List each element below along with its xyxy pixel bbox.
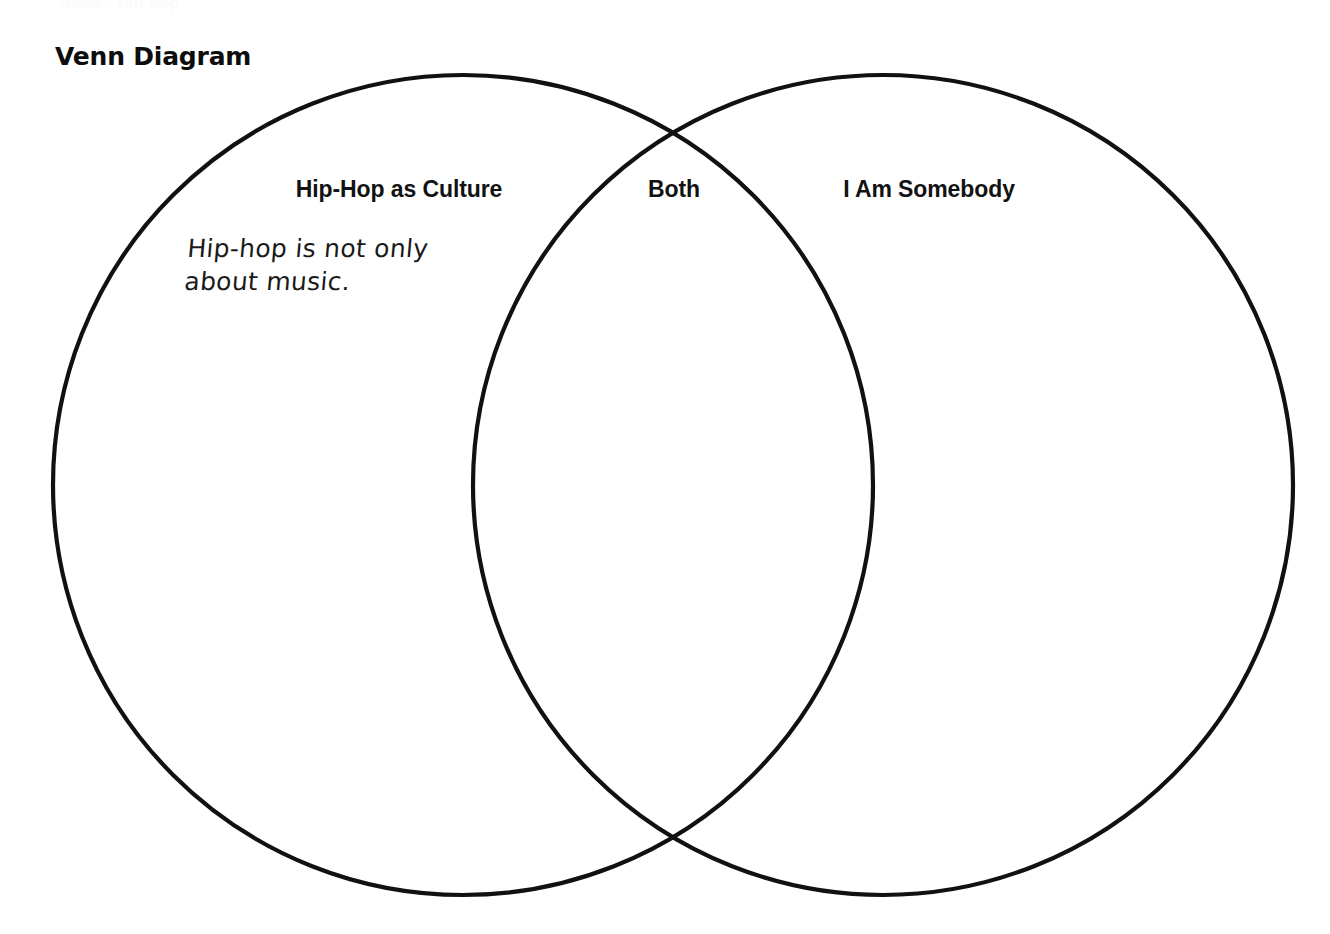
venn-label-left: Hip-Hop as Culture xyxy=(296,176,502,203)
venn-entry-left-text[interactable]: Hip-hop is not only about music. xyxy=(183,232,489,299)
venn-label-overlap: Both xyxy=(648,176,700,203)
venn-label-right: I Am Somebody xyxy=(843,176,1015,203)
